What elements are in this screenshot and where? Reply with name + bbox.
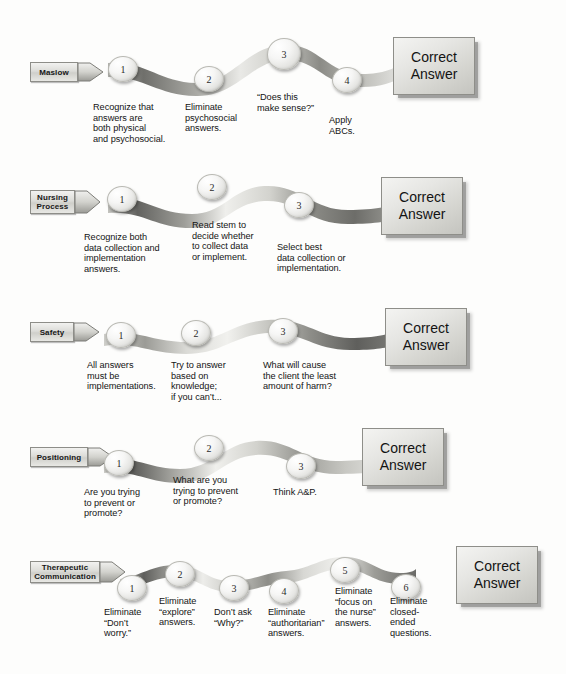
step-caption-3: “Does this make sense?” <box>257 92 341 113</box>
entry-arrow-icon <box>78 62 104 82</box>
step-number: 3 <box>299 461 304 472</box>
step-node-1: 1 <box>117 575 147 601</box>
step-node-4: 4 <box>269 578 299 604</box>
answer-line-2: Answer <box>403 337 450 354</box>
correct-answer-box: Correct Answer <box>393 37 475 95</box>
step-caption-2: Try to answer based on knowledge; if you… <box>171 360 263 402</box>
step-number: 1 <box>120 194 125 205</box>
step-node-1: 1 <box>108 56 138 82</box>
step-node-2: 2 <box>194 66 224 92</box>
entry-maslow: Maslow <box>30 62 104 82</box>
step-number: 3 <box>232 583 237 594</box>
entry-label-text: Maslow <box>39 68 69 77</box>
step-number: 1 <box>117 458 122 469</box>
correct-answer-box: Correct Answer <box>381 177 463 235</box>
step-number: 2 <box>210 182 215 193</box>
step-number: 4 <box>345 75 350 86</box>
step-node-2: 2 <box>181 320 211 346</box>
step-node-3: 3 <box>219 575 249 601</box>
flow-row-therapeutic-communication: Therapeutic Communication <box>0 545 566 674</box>
step-number: 1 <box>119 330 124 341</box>
entry-label-text: Safety <box>40 328 65 337</box>
answer-line-2: Answer <box>411 66 458 83</box>
entry-label-text: Positioning <box>37 453 82 462</box>
answer-line-1: Correct <box>380 440 426 457</box>
step-number: 1 <box>130 583 135 594</box>
step-node-1: 1 <box>106 322 136 348</box>
step-caption-1: Recognize that answers are both physical… <box>93 102 193 144</box>
entry-arrow-icon <box>75 190 101 214</box>
answer-line-1: Correct <box>474 558 520 575</box>
step-number: 2 <box>194 328 199 339</box>
step-number: 3 <box>282 49 287 60</box>
entry-label-box-nursing-process: Nursing Process <box>30 190 75 214</box>
entry-label-box-maslow: Maslow <box>30 62 78 82</box>
step-number: 2 <box>207 74 212 85</box>
step-node-3: 3 <box>286 453 316 479</box>
step-number: 2 <box>207 443 212 454</box>
step-number: 6 <box>404 582 409 593</box>
entry-label-text: Nursing Process <box>37 193 69 211</box>
flow-row-nursing-process: Nursing Process <box>0 160 566 300</box>
step-node-2: 2 <box>165 561 195 587</box>
step-number: 1 <box>121 64 126 75</box>
step-node-5: 5 <box>330 557 360 583</box>
step-number: 3 <box>281 326 286 337</box>
step-caption-3: Think A&P. <box>273 487 353 498</box>
entry-nursing-process: Nursing Process <box>30 190 101 214</box>
step-number: 4 <box>282 586 287 597</box>
step-caption-3: Don’t ask “Why?” <box>214 607 272 628</box>
step-number: 5 <box>343 565 348 576</box>
step-node-4: 4 <box>332 67 362 93</box>
entry-arrow-icon <box>74 322 100 342</box>
flow-row-safety: Safety <box>0 300 566 430</box>
step-caption-6: Eliminate closed- ended questions. <box>390 596 456 638</box>
diagram-canvas: Maslow <box>0 0 566 674</box>
step-caption-4: Apply ABCs. <box>329 115 389 136</box>
flow-row-positioning: Positioning <box>0 425 566 545</box>
step-node-2: 2 <box>197 174 227 200</box>
ribbon-path-maslow <box>104 30 404 100</box>
flow-row-maslow: Maslow <box>0 0 566 160</box>
step-node-1: 1 <box>104 450 134 476</box>
entry-label-text: Therapeutic Communication <box>34 563 96 581</box>
correct-answer-box: Correct Answer <box>456 546 538 604</box>
step-node-1: 1 <box>107 186 137 212</box>
answer-line-2: Answer <box>474 575 521 592</box>
ribbon-path-safety <box>100 308 400 360</box>
entry-label-box-therapeutic-communication: Therapeutic Communication <box>30 561 100 583</box>
step-node-3[interactable]: 3 <box>267 38 301 70</box>
step-node-2: 2 <box>194 435 224 461</box>
step-node-3: 3 <box>284 192 314 218</box>
answer-line-1: Correct <box>399 189 445 206</box>
step-caption-2: Read stem to decide whether to collect d… <box>192 220 290 262</box>
step-caption-1: Are you trying to prevent or promote? <box>84 487 178 519</box>
answer-line-2: Answer <box>399 206 446 223</box>
step-caption-1: Recognize both data collection and imple… <box>84 232 194 274</box>
step-number: 3 <box>297 200 302 211</box>
step-caption-5: Eliminate “focus on the nurse” answers. <box>335 586 397 628</box>
correct-answer-box: Correct Answer <box>362 428 444 486</box>
step-caption-2: Eliminate “explore” answers. <box>159 596 221 628</box>
answer-line-1: Correct <box>403 320 449 337</box>
entry-safety: Safety <box>30 322 100 342</box>
entry-label-box-positioning: Positioning <box>30 447 88 467</box>
step-caption-2: Eliminate psychosocial answers. <box>185 102 265 134</box>
entry-therapeutic-communication: Therapeutic Communication <box>30 561 126 583</box>
answer-line-2: Answer <box>380 457 427 474</box>
step-caption-1: Eliminate “Don’t worry.” <box>104 607 166 639</box>
correct-answer-box: Correct Answer <box>385 308 467 366</box>
entry-label-box-safety: Safety <box>30 322 74 342</box>
answer-line-1: Correct <box>411 49 457 66</box>
step-caption-3: Select best data collection or implement… <box>277 242 387 274</box>
step-node-3: 3 <box>268 318 298 344</box>
step-number: 2 <box>178 569 183 580</box>
step-caption-2: What are you trying to prevent or promot… <box>173 475 273 507</box>
entry-positioning: Positioning <box>30 447 114 467</box>
step-caption-3: What will cause the client the least amo… <box>263 360 373 392</box>
